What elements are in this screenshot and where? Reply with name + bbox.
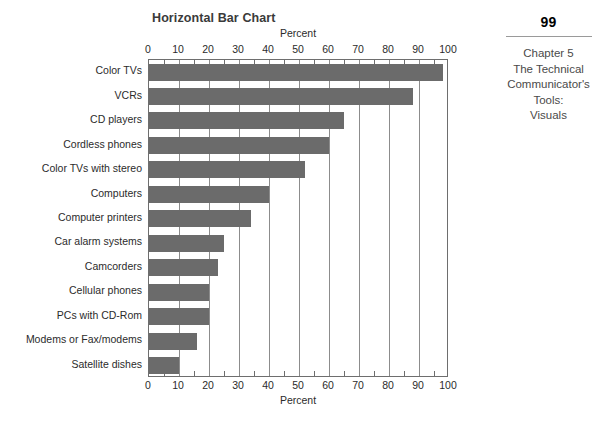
running-head-line: Visuals	[492, 108, 605, 124]
x-tick-label: 10	[172, 43, 184, 55]
top-axis-tick-labels: 0102030405060708090100	[148, 43, 448, 57]
x-tick-label: 50	[292, 379, 304, 391]
bar-series	[149, 60, 447, 376]
bar	[149, 210, 251, 227]
x-tick-label: 0	[145, 43, 151, 55]
x-tick-label: 70	[352, 379, 364, 391]
running-head-line: The Technical	[492, 62, 605, 78]
margin-divider	[506, 36, 592, 37]
bar	[149, 64, 443, 81]
running-head-line: Chapter 5	[492, 46, 605, 62]
bar	[149, 333, 197, 350]
x-tick-label: 30	[232, 43, 244, 55]
x-tick-label: 80	[382, 379, 394, 391]
bar	[149, 88, 413, 105]
page-margin-column: 99 Chapter 5The TechnicalCommunicator'sT…	[492, 0, 605, 421]
category-label: Satellite dishes	[0, 358, 142, 370]
bottom-axis-tick-labels: 0102030405060708090100	[148, 379, 448, 393]
running-head-line: Communicator's	[492, 77, 605, 93]
x-tick-label: 10	[172, 379, 184, 391]
bar	[149, 284, 209, 301]
category-label: Cordless phones	[0, 138, 142, 150]
plot-area	[148, 59, 448, 377]
category-label: Car alarm systems	[0, 235, 142, 247]
running-head: Chapter 5The TechnicalCommunicator'sTool…	[492, 46, 605, 124]
x-tick-label: 80	[382, 43, 394, 55]
category-label: VCRs	[0, 89, 142, 101]
top-axis-title: Percent	[148, 27, 448, 39]
page: Horizontal Bar Chart Percent 01020304050…	[0, 0, 605, 421]
category-axis-labels: Color TVsVCRsCD playersCordless phonesCo…	[0, 59, 142, 377]
x-tick-label: 90	[412, 379, 424, 391]
x-tick-label: 100	[439, 379, 457, 391]
category-label: CD players	[0, 113, 142, 125]
category-label: PCs with CD-Rom	[0, 309, 142, 321]
horizontal-bar-chart: Horizontal Bar Chart Percent 01020304050…	[0, 0, 470, 421]
x-tick-label: 40	[262, 379, 274, 391]
x-tick-label: 40	[262, 43, 274, 55]
bar	[149, 112, 344, 129]
category-label: Color TVs with stereo	[0, 162, 142, 174]
chart-title: Horizontal Bar Chart	[152, 11, 276, 25]
x-tick-label: 60	[322, 43, 334, 55]
category-label: Computer printers	[0, 211, 142, 223]
x-tick-label: 50	[292, 43, 304, 55]
x-tick-label: 20	[202, 43, 214, 55]
category-label: Computers	[0, 187, 142, 199]
x-tick-label: 60	[322, 379, 334, 391]
category-label: Cellular phones	[0, 284, 142, 296]
category-label: Modems or Fax/modems	[0, 333, 142, 345]
bar	[149, 137, 329, 154]
bar	[149, 357, 179, 374]
x-tick-label: 100	[439, 43, 457, 55]
x-tick-label: 0	[145, 379, 151, 391]
running-head-line: Tools:	[492, 93, 605, 109]
bar	[149, 161, 305, 178]
bar	[149, 308, 209, 325]
bottom-axis-title: Percent	[148, 394, 448, 406]
category-label: Color TVs	[0, 64, 142, 76]
bar	[149, 186, 269, 203]
x-tick-label: 90	[412, 43, 424, 55]
x-tick-label: 70	[352, 43, 364, 55]
bar	[149, 235, 224, 252]
category-label: Camcorders	[0, 260, 142, 272]
page-number: 99	[492, 14, 605, 30]
x-tick-label: 20	[202, 379, 214, 391]
x-tick-label: 30	[232, 379, 244, 391]
bar	[149, 259, 218, 276]
